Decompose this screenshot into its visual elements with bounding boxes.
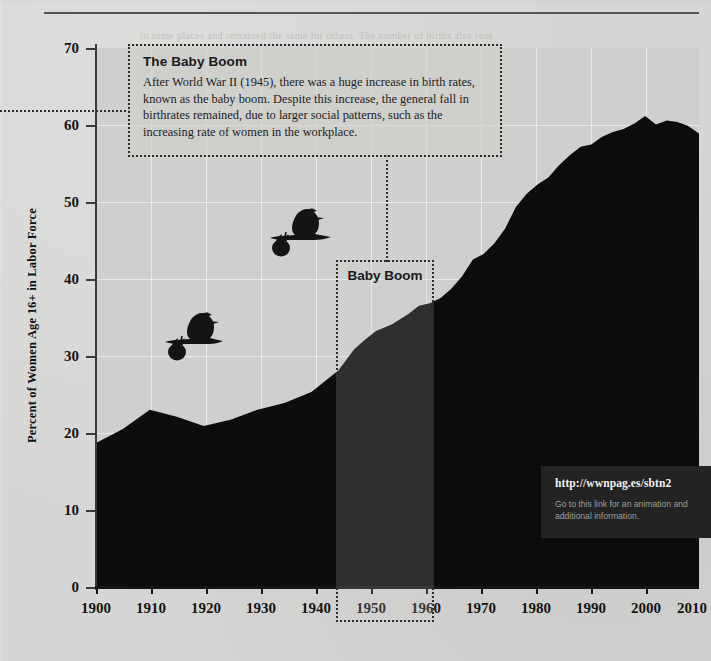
x-tick [151, 587, 153, 594]
y-tick-label: 70 [64, 40, 79, 57]
y-axis-title: Percent of Women Age 16+ in Labor Force [25, 206, 40, 446]
callout-leader-line-down [386, 155, 388, 262]
x-tick [261, 587, 263, 594]
y-tick [86, 510, 95, 512]
y-tick-label: 30 [64, 348, 79, 365]
y-tick-label: 50 [64, 194, 79, 211]
url-note: Go to this link for an animation and add… [555, 498, 705, 522]
y-tick-label: 0 [72, 579, 80, 596]
y-axis-line [95, 44, 97, 590]
x-tick [206, 587, 208, 594]
baby-boom-band [336, 260, 434, 622]
x-tick [591, 587, 593, 594]
url-callout-box[interactable]: http://wwnpag.es/sbtn2 Go to this link f… [541, 466, 711, 538]
x-tick-label: 2010 [677, 600, 707, 617]
stork-icon [152, 312, 230, 364]
y-tick-label: 60 [64, 117, 79, 134]
x-tick [96, 587, 98, 594]
y-tick [86, 587, 95, 589]
x-tick-label: 1980 [521, 600, 551, 617]
y-tick [86, 356, 95, 358]
x-tick-label: 2000 [631, 600, 661, 617]
callout-body: After World War II (1945), there was a h… [143, 74, 487, 140]
x-tick [316, 587, 318, 594]
y-tick-label: 40 [64, 271, 79, 288]
x-tick-label: 1970 [466, 600, 496, 617]
x-tick-label: 1900 [81, 600, 111, 617]
y-tick [86, 48, 95, 50]
y-tick [86, 433, 95, 435]
url-link[interactable]: http://wwnpag.es/sbtn2 [555, 477, 671, 489]
x-tick [481, 587, 483, 594]
baby-boom-band-label: Baby Boom [336, 268, 434, 283]
x-tick-label: 1940 [301, 600, 331, 617]
gridline-horizontal [96, 202, 699, 203]
callout-box-baby-boom: The Baby Boom After World War II (1945),… [128, 44, 502, 157]
stork-icon [255, 208, 335, 260]
x-tick [536, 587, 538, 594]
y-tick [86, 202, 95, 204]
x-tick [646, 587, 648, 594]
x-tick-label: 1910 [136, 600, 166, 617]
y-tick-label: 20 [64, 425, 79, 442]
callout-title: The Baby Boom [143, 54, 487, 69]
y-tick [86, 125, 95, 127]
x-tick-label: 1920 [191, 600, 221, 617]
y-tick [86, 279, 95, 281]
x-tick-label: 1930 [246, 600, 276, 617]
gridline-vertical [536, 48, 537, 588]
x-tick-label: 1990 [576, 600, 606, 617]
y-tick-label: 10 [64, 502, 79, 519]
callout-leader-line-left [0, 110, 130, 112]
